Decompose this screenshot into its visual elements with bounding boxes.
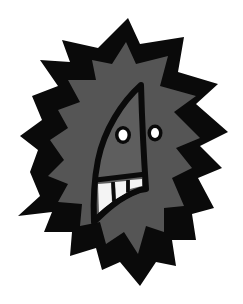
spiky-creature-illustration — [0, 0, 243, 304]
illustration-canvas: Cartoon illustration of a spiky starburs… — [0, 0, 243, 304]
eye-left — [119, 130, 128, 141]
eye-right — [151, 128, 159, 138]
tooth-separator-1 — [113, 182, 114, 201]
